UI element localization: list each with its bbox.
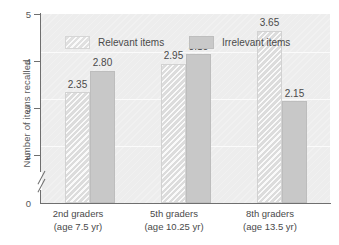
axis-break-icon [32, 168, 50, 194]
y-tick-5 [34, 14, 40, 15]
hatched-swatch-icon [65, 36, 90, 49]
x-category-line2: (age 10.25 yr) [119, 221, 229, 234]
y-tick-2 [34, 155, 40, 156]
x-category-line2: (age 7.5 yr) [23, 221, 133, 234]
legend-label-irrelevant: Irrelevant items [222, 37, 290, 48]
bar-label-2-35: 2.35 [53, 79, 102, 90]
legend-item-irrelevant: Irrelevant items [189, 36, 290, 49]
plot-area: 2.35 2.80 2.95 3.15 3.65 2.15 Relevant i… [41, 14, 330, 203]
bar-irrelevant-2nd-graders [90, 71, 115, 203]
x-category-2nd-graders: 2nd graders (age 7.5 yr) [23, 208, 133, 233]
bar-relevant-8th-graders [257, 31, 282, 203]
bar-irrelevant-8th-graders [282, 101, 307, 203]
x-category-line1: 2nd graders [53, 208, 104, 219]
y-tick-label-0: 0 [5, 198, 31, 209]
y-tick-label-3: 3 [5, 103, 31, 114]
bar-irrelevant-5th-graders [186, 54, 211, 203]
y-tick-label-2: 2 [5, 150, 31, 161]
bar-chart-figure: Number of items recalled 2.35 2.80 2.95 … [0, 0, 339, 245]
bar-label-2-15: 2.15 [270, 88, 319, 99]
y-tick-4 [34, 61, 40, 62]
x-category-line2: (age 13.5 yr) [215, 221, 325, 234]
y-tick-3 [34, 108, 40, 109]
legend-label-relevant: Relevant items [98, 37, 164, 48]
y-tick-label-4: 4 [5, 56, 31, 67]
x-axis-line [40, 203, 331, 204]
y-tick-label-5: 5 [5, 9, 31, 20]
x-category-line1: 5th graders [150, 208, 198, 219]
bar-relevant-5th-graders [161, 64, 186, 203]
solid-swatch-icon [189, 36, 214, 49]
x-category-8th-graders: 8th graders (age 13.5 yr) [215, 208, 325, 233]
bar-label-3-65: 3.65 [245, 17, 294, 28]
legend-item-relevant: Relevant items [65, 36, 164, 49]
bar-relevant-2nd-graders [65, 92, 90, 203]
x-category-5th-graders: 5th graders (age 10.25 yr) [119, 208, 229, 233]
bar-label-2-80: 2.80 [78, 57, 127, 68]
x-category-line1: 8th graders [246, 208, 294, 219]
legend: Relevant items Irrelevant items [41, 36, 330, 56]
clipped-caption-remnant [14, 0, 334, 2]
